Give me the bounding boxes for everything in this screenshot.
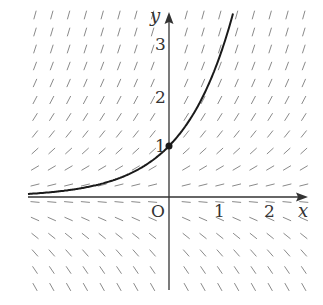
slope-mark <box>284 148 291 154</box>
slope-mark <box>100 79 104 87</box>
slope-mark <box>285 62 288 70</box>
slope-mark <box>251 113 256 121</box>
slope-mark <box>83 131 89 138</box>
slope-mark <box>269 28 272 37</box>
slope-mark <box>199 202 208 203</box>
slope-mark <box>66 250 72 257</box>
y-tick-2: 2 <box>155 87 166 107</box>
slope-mark <box>182 202 191 203</box>
slope-mark <box>33 266 38 273</box>
slope-mark <box>216 233 223 239</box>
slope-mark <box>182 217 190 221</box>
slope-mark <box>182 184 191 186</box>
slope-mark <box>32 250 38 257</box>
slope-mark <box>81 217 89 221</box>
slope-mark <box>49 250 55 257</box>
slope-mark <box>184 283 188 291</box>
slope-mark <box>131 202 140 203</box>
slope-mark <box>250 250 256 257</box>
slope-mark <box>116 148 123 154</box>
slope-mark <box>50 79 54 87</box>
slope-mark <box>132 233 139 239</box>
slope-mark <box>232 184 241 186</box>
slope-mark <box>233 217 241 221</box>
slope-mark <box>151 45 154 54</box>
slope-mark <box>98 217 106 221</box>
slope-mark <box>268 266 273 273</box>
slope-mark <box>82 250 88 257</box>
slope-mark <box>115 184 124 186</box>
slope-mark <box>217 266 222 273</box>
slope-mark <box>185 11 187 20</box>
slope-mark <box>118 45 121 54</box>
slope-mark <box>184 266 189 273</box>
slope-mark <box>285 283 289 291</box>
slope-mark <box>33 96 37 104</box>
slope-mark <box>269 62 272 70</box>
slope-mark <box>31 184 40 186</box>
slope-mark <box>51 11 53 20</box>
slope-mark <box>267 233 274 239</box>
slope-mark <box>134 283 138 291</box>
slope-mark <box>49 266 54 273</box>
slope-mark <box>133 250 139 257</box>
slope-mark <box>135 28 138 37</box>
slope-mark <box>99 148 106 154</box>
slope-mark <box>150 283 154 291</box>
slope-mark <box>202 28 205 37</box>
slope-mark <box>66 266 71 273</box>
slope-mark <box>65 148 72 154</box>
slope-mark <box>218 96 222 104</box>
slope-mark <box>217 131 223 138</box>
slope-mark <box>285 113 290 121</box>
slope-mark <box>233 233 240 239</box>
solution-curve <box>28 14 233 194</box>
slope-mark <box>116 131 122 138</box>
slope-mark <box>234 266 239 273</box>
slope-mark <box>133 266 138 273</box>
slope-mark <box>283 202 292 203</box>
slope-mark <box>151 28 154 37</box>
slope-mark <box>149 233 156 239</box>
slope-mark <box>268 283 272 291</box>
slope-mark <box>65 217 73 221</box>
slope-mark <box>51 28 54 37</box>
slope-mark <box>66 131 72 138</box>
slope-mark <box>217 113 222 121</box>
slope-mark <box>201 283 205 291</box>
slope-mark <box>49 131 55 138</box>
slope-mark <box>215 184 224 186</box>
slope-mark <box>218 79 222 87</box>
slope-mark <box>252 28 255 37</box>
y-tick-1: 1 <box>155 136 166 156</box>
slope-mark <box>302 79 306 87</box>
slope-mark <box>235 79 239 87</box>
slope-mark <box>50 96 54 104</box>
slope-mark <box>49 148 56 154</box>
slope-mark <box>101 45 104 54</box>
slope-mark <box>201 62 204 70</box>
slope-mark <box>32 148 39 154</box>
slope-mark <box>134 79 138 87</box>
slope-mark <box>267 131 273 138</box>
slope-mark <box>67 45 70 54</box>
slope-mark <box>83 113 88 121</box>
slope-mark <box>117 113 122 121</box>
slope-mark <box>134 45 137 54</box>
slope-mark <box>150 113 155 121</box>
slope-mark <box>50 283 54 291</box>
slope-mark <box>117 79 121 87</box>
slope-mark <box>100 266 105 273</box>
slope-mark <box>150 250 156 257</box>
slope-mark <box>66 283 70 291</box>
slope-mark <box>251 96 255 104</box>
slope-mark <box>100 283 104 291</box>
slope-mark <box>133 131 139 138</box>
slope-mark <box>251 266 256 273</box>
slope-mark <box>219 11 221 20</box>
slope-mark <box>266 184 275 186</box>
slope-mark <box>250 148 257 154</box>
slope-mark <box>301 266 306 273</box>
slope-mark <box>100 113 105 121</box>
slope-mark <box>218 62 221 70</box>
